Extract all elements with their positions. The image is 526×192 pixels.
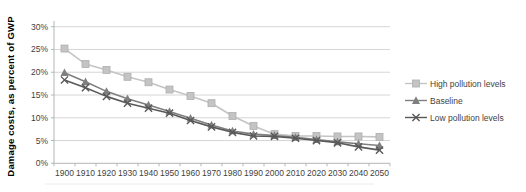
damage-costs-chart: Damage costs, as percent of GWP 0%5%10%1… bbox=[0, 0, 526, 192]
series-0-marker bbox=[61, 45, 68, 52]
legend: High pollution levels Baseline Low pollu… bbox=[405, 78, 506, 123]
x-tick-label: 1960 bbox=[181, 168, 200, 178]
x-tick-label: 1930 bbox=[118, 168, 137, 178]
y-tick-label: 10% bbox=[31, 113, 48, 123]
x-tick-label: 1950 bbox=[160, 168, 179, 178]
y-tick-label: 5% bbox=[36, 136, 49, 146]
series-0-marker bbox=[250, 122, 257, 129]
y-tick-label: 25% bbox=[31, 44, 48, 54]
x-tick-label: 2040 bbox=[349, 168, 368, 178]
x-tick-label: 2020 bbox=[307, 168, 326, 178]
x-tick-label: 2010 bbox=[286, 168, 305, 178]
series-line-2 bbox=[65, 80, 380, 150]
series-0-marker bbox=[376, 133, 383, 140]
legend-label-high-pollution: High pollution levels bbox=[430, 79, 506, 89]
series-0-marker bbox=[166, 86, 173, 93]
legend-item-low-pollution: Low pollution levels bbox=[405, 112, 506, 123]
x-tick-label: 1910 bbox=[76, 168, 95, 178]
x-tick-label: 1900 bbox=[55, 168, 74, 178]
y-tick-label: 30% bbox=[31, 22, 48, 32]
legend-label-low-pollution: Low pollution levels bbox=[430, 113, 504, 123]
series-0-marker bbox=[355, 133, 362, 140]
y-tick-label: 15% bbox=[31, 90, 48, 100]
y-tick-label: 0% bbox=[36, 158, 49, 168]
series-0-marker bbox=[82, 61, 89, 68]
legend-label-baseline: Baseline bbox=[430, 96, 463, 106]
series-2-marker bbox=[61, 76, 68, 83]
legend-item-high-pollution: High pollution levels bbox=[405, 78, 506, 89]
series-0-marker bbox=[187, 92, 194, 99]
series-0-marker bbox=[124, 73, 131, 80]
square-marker-icon bbox=[405, 78, 427, 89]
x-tick-label: 1920 bbox=[97, 168, 116, 178]
x-tick-label: 2000 bbox=[265, 168, 284, 178]
series-0-marker bbox=[208, 100, 215, 107]
series-0-marker bbox=[103, 66, 110, 73]
y-tick-label: 20% bbox=[31, 67, 48, 77]
x-tick-label: 1980 bbox=[223, 168, 242, 178]
x-tick-label: 1970 bbox=[202, 168, 221, 178]
x-tick-label: 2050 bbox=[370, 168, 389, 178]
series-0-marker bbox=[145, 79, 152, 86]
series-0-marker bbox=[229, 112, 236, 119]
x-tick-label: 2030 bbox=[328, 168, 347, 178]
triangle-marker-icon bbox=[405, 95, 427, 106]
x-tick-label: 1940 bbox=[139, 168, 158, 178]
legend-item-baseline: Baseline bbox=[405, 95, 506, 106]
legend-marker bbox=[413, 80, 420, 87]
x-marker-icon bbox=[405, 112, 427, 123]
x-tick-label: 1990 bbox=[244, 168, 263, 178]
